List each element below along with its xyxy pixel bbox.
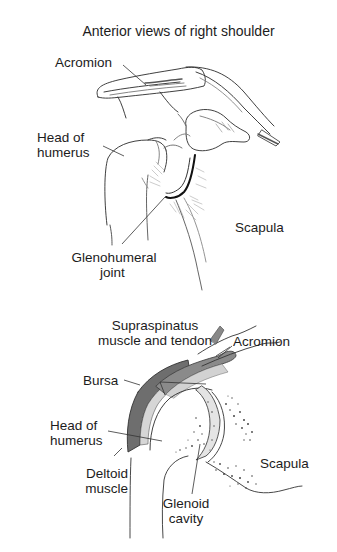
label-glenoid-line1: Glenoid xyxy=(158,496,214,511)
label-supraspinatus-line2: muscle and tendon xyxy=(90,333,220,348)
label-glenoid-cavity: Glenoid cavity xyxy=(158,496,214,526)
label-bursa: Bursa xyxy=(83,373,118,388)
label-supraspinatus-line1: Supraspinatus xyxy=(90,318,220,333)
humerus-head-leader-line xyxy=(103,146,124,156)
label-deltoid-line1: Deltoid xyxy=(70,466,128,481)
glenoid-leader-line xyxy=(192,444,200,494)
label-head-of-humerus-top-line1: Head of xyxy=(37,130,103,145)
label-deltoid-muscle: Deltoid muscle xyxy=(70,466,128,496)
label-scapula-bottom: Scapula xyxy=(260,456,309,471)
label-head-of-humerus-top-line2: humerus xyxy=(37,145,103,160)
label-glenohumeral-line1: Glenohumeral xyxy=(66,250,162,265)
glenohumeral-leader-line xyxy=(122,197,165,244)
label-glenoid-line2: cavity xyxy=(158,511,214,526)
coracoid-process xyxy=(186,109,250,150)
label-scapula-top: Scapula xyxy=(235,220,284,235)
shoulder-anatomy-diagram: Anterior views of right shoulder xyxy=(0,0,337,552)
label-acromion-top: Acromion xyxy=(55,55,112,70)
label-deltoid-line2: muscle xyxy=(70,481,128,496)
label-head-of-humerus-top: Head of humerus xyxy=(37,130,103,160)
label-glenohumeral-joint: Glenohumeral joint xyxy=(66,250,162,280)
label-glenohumeral-line2: joint xyxy=(66,265,162,280)
glenohumeral-joint-line xyxy=(166,155,195,198)
label-acromion-bottom: Acromion xyxy=(233,334,290,349)
label-head-of-humerus-bottom: Head of humerus xyxy=(50,418,103,448)
label-supraspinatus: Supraspinatus muscle and tendon xyxy=(90,318,220,348)
humerus-head xyxy=(105,140,166,225)
label-head-of-humerus-bottom-line2: humerus xyxy=(50,433,103,448)
label-head-of-humerus-bottom-line1: Head of xyxy=(50,418,103,433)
deltoid-leader-line xyxy=(114,448,122,456)
bursa-leader-line xyxy=(124,380,140,385)
